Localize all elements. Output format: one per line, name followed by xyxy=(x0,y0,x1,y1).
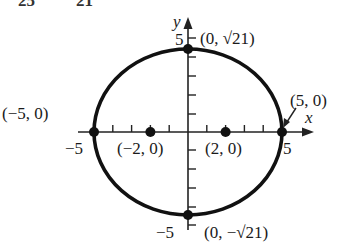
label-vertex-left: (−5, 0) xyxy=(2,105,48,122)
point-vertex-top xyxy=(183,44,193,54)
label-vertex-top: (0, √21) xyxy=(200,30,255,47)
x-axis-label: x xyxy=(305,109,313,126)
point-focus-left xyxy=(145,127,155,137)
point-vertex-left xyxy=(89,127,99,137)
point-vertex-bottom xyxy=(183,210,193,220)
tick-label-y-bottom: −5 xyxy=(156,224,174,241)
label-focus-left: (−2, 0) xyxy=(117,140,163,157)
point-vertex-right xyxy=(277,127,287,137)
pointer-arrow-icon xyxy=(283,108,296,128)
label-focus-right: (2, 0) xyxy=(205,140,242,157)
tick-label-y-top: 5 xyxy=(175,31,184,48)
y-axis-arrow-icon xyxy=(184,17,193,29)
label-vertex-right: (5, 0) xyxy=(290,92,327,109)
point-focus-right xyxy=(221,127,231,137)
x-axis-arrow-icon xyxy=(302,128,314,137)
y-axis-label: y xyxy=(173,13,181,30)
tick-label-x-left: −5 xyxy=(65,140,83,157)
tick-label-x-right: 5 xyxy=(283,140,292,157)
label-vertex-bottom: (0, −√21) xyxy=(204,224,268,241)
